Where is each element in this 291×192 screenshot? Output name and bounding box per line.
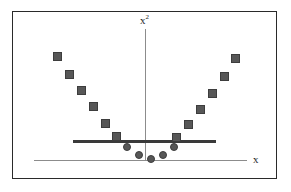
figure-container: x2 x [0,0,291,192]
plot-area: x2 x [13,12,276,178]
data-point-circle [135,151,143,159]
data-point-circle [147,155,155,163]
data-point-square [101,119,110,128]
y-axis-label: x2 [140,15,149,26]
threshold-line [73,140,216,143]
data-point-square [172,133,181,142]
data-point-square [231,54,240,63]
data-point-square [112,132,121,141]
x-axis-line [34,160,247,161]
data-point-circle [159,151,167,159]
data-point-square [208,89,217,98]
data-point-square [77,86,86,95]
data-point-circle [123,143,131,151]
data-point-square [184,120,193,129]
plot-frame: x2 x [12,11,277,179]
data-point-square [89,102,98,111]
data-point-square [65,70,74,79]
x-axis-label: x [253,154,259,165]
data-point-square [53,52,62,61]
data-point-square [220,72,229,81]
y-axis-label-exponent: 2 [146,13,150,21]
data-point-square [196,105,205,114]
data-point-circle [170,143,178,151]
